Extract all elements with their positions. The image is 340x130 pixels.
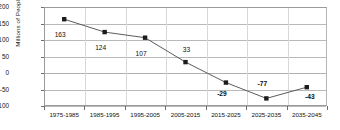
x-tick-mark (125, 106, 126, 110)
category-separator (288, 8, 289, 105)
gridline (45, 40, 326, 41)
x-tick-mark (287, 106, 288, 110)
data-point-label: 124 (95, 44, 106, 51)
plot-area (44, 7, 327, 106)
x-tick-mark (84, 106, 85, 110)
x-tick-label: 2035-2045 (279, 111, 335, 118)
y-tick-label: -50 (0, 87, 9, 93)
y-tick-label: 50 (0, 54, 9, 60)
category-separator (166, 8, 167, 105)
x-tick-mark (206, 106, 207, 110)
gridline (45, 57, 326, 58)
category-separator (85, 8, 86, 105)
x-tick-mark (165, 106, 166, 110)
x-tick-mark (246, 106, 247, 110)
y-axis-title: Millions of People (14, 0, 21, 67)
gridline (45, 24, 326, 25)
y-tick-label: 200 (0, 4, 9, 10)
category-separator (126, 8, 127, 105)
category-separator (207, 8, 208, 105)
y-tick-label: 100 (0, 37, 9, 43)
y-tick-label: -100 (0, 103, 9, 109)
y-tick-label: 150 (0, 21, 9, 27)
data-point-label: -77 (258, 80, 268, 87)
gridline (45, 106, 326, 107)
data-point-label: 33 (183, 46, 190, 53)
y-tick-label: 0 (0, 70, 9, 76)
data-point-label: 163 (55, 31, 66, 38)
gridline (45, 73, 326, 74)
x-tick-mark (327, 106, 328, 110)
chart-container: Millions of People 200150100500-50-100 1… (0, 0, 340, 130)
gridline (45, 90, 326, 91)
x-tick-mark (44, 106, 45, 110)
data-point-label: -43 (305, 93, 315, 100)
category-separator (247, 8, 248, 105)
data-point-label: -29 (217, 90, 227, 97)
data-point-label: 107 (136, 50, 147, 57)
